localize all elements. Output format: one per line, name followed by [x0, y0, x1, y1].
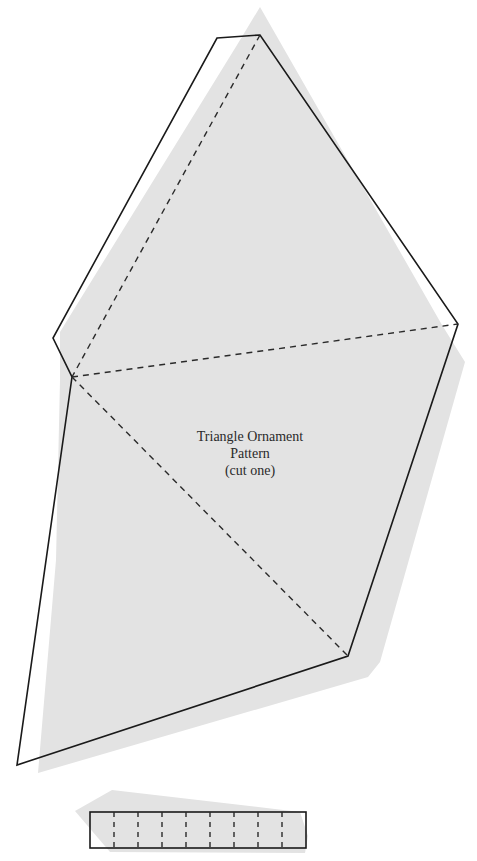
main-pattern-shadow	[38, 7, 465, 773]
pattern-note: (cut one)	[180, 462, 320, 479]
strip-shadow	[75, 790, 308, 853]
pattern-title: Triangle Ornament	[180, 428, 320, 445]
pattern-subtitle: Pattern	[180, 445, 320, 462]
pattern-label: Triangle Ornament Pattern (cut one)	[180, 428, 320, 479]
